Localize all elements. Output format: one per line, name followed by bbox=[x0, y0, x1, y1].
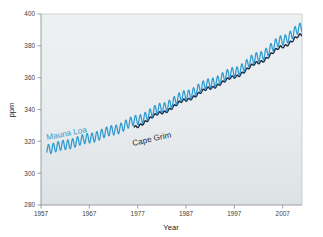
y-tick-label-280: 280 bbox=[24, 201, 35, 208]
x-tick-label-1997: 1997 bbox=[227, 210, 242, 217]
x-tick-label-2007: 2007 bbox=[276, 210, 291, 217]
chart-canvas: 400 380 360 340 320 300 280 1957 1967 19… bbox=[0, 0, 323, 237]
y-tick-label-320: 320 bbox=[24, 138, 35, 145]
x-tick-label-1977: 1977 bbox=[131, 210, 146, 217]
x-tick-label-1987: 1987 bbox=[179, 210, 194, 217]
y-tick-label-380: 380 bbox=[24, 42, 35, 49]
x-tick-label-1967: 1967 bbox=[82, 210, 97, 217]
co2-concentration-chart: 400 380 360 340 320 300 280 1957 1967 19… bbox=[0, 0, 323, 237]
x-axis-title: Year bbox=[163, 223, 179, 232]
y-tick-label-400: 400 bbox=[24, 10, 35, 17]
x-tick-label-1957: 1957 bbox=[34, 210, 49, 217]
y-axis-title: ppm bbox=[7, 103, 16, 118]
y-tick-label-360: 360 bbox=[24, 74, 35, 81]
y-tick-label-300: 300 bbox=[24, 170, 35, 177]
y-tick-label-340: 340 bbox=[24, 106, 35, 113]
